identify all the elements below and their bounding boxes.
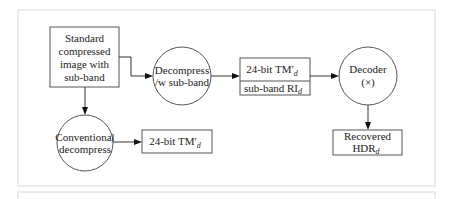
node-standard-line1: Standard	[65, 32, 105, 44]
node-standard-compressed-image: Standard compressed image with sub-band	[50, 27, 119, 87]
node-subband-ri-label: sub-band RId	[244, 82, 303, 96]
node-decoder: Decoder (×)	[339, 47, 397, 105]
node-conventional-line1: Conventional	[55, 131, 114, 143]
node-standard-line4: sub-band	[64, 71, 105, 83]
node-decoder-line1: Decoder	[349, 63, 387, 75]
node-standard-line3: image with	[60, 58, 110, 70]
node-recovered-hdr: Recovered HDRd	[333, 130, 402, 156]
next-panel-frame	[18, 192, 435, 199]
node-conventional-line2: decompress	[59, 143, 111, 155]
node-tm-subband-box: 24-bit TM′d sub-band RId	[240, 58, 310, 96]
node-standard-line2: compressed	[59, 45, 111, 57]
node-recovered-line1: Recovered	[344, 130, 392, 142]
node-decompress-line2: /w sub-band	[155, 76, 210, 88]
node-decompress-sub-band: Decompress /w sub-band	[153, 47, 211, 105]
node-decoder-line2: (×)	[361, 76, 375, 89]
node-tm-plain: 24-bit TM′d	[142, 130, 212, 153]
diagram-canvas: Standard compressed image with sub-band …	[0, 0, 451, 199]
node-decompress-line1: Decompress	[155, 64, 209, 76]
